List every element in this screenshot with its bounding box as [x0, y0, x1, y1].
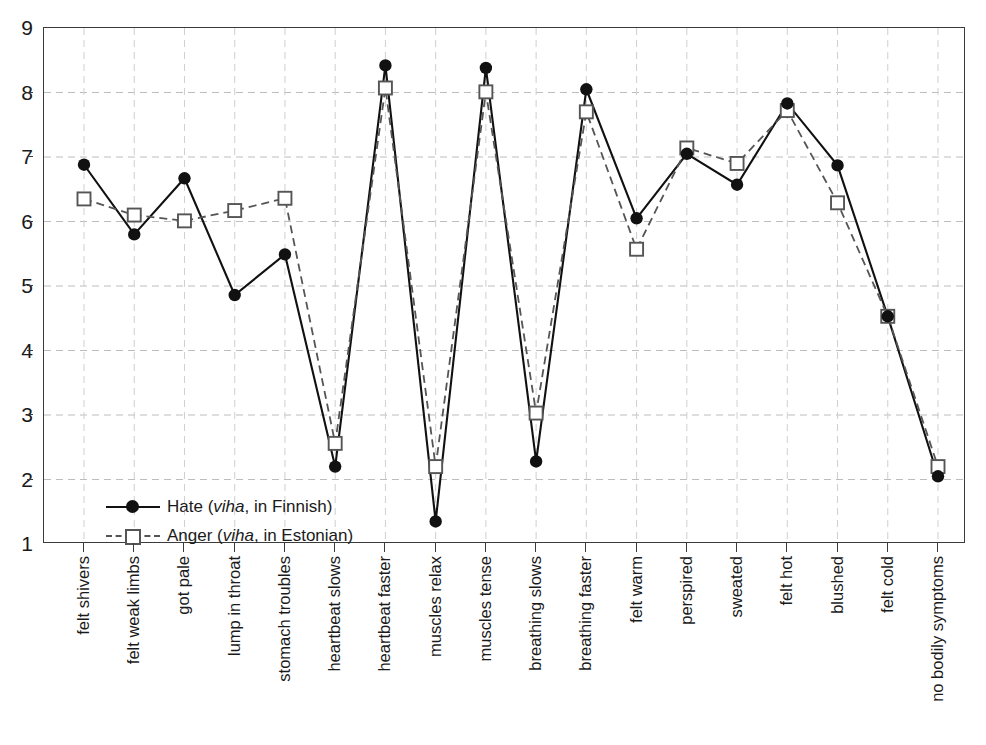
- data-point-hate: [530, 455, 542, 467]
- data-point-anger: [479, 85, 492, 98]
- data-point-anger: [329, 437, 342, 450]
- legend-item-hate: Hate (viha, in Finnish): [106, 492, 406, 521]
- data-point-hate: [379, 59, 391, 71]
- x-axis-tick: [284, 543, 285, 552]
- data-point-hate: [831, 159, 843, 171]
- x-axis-label-text: felt cold: [879, 556, 896, 613]
- x-axis-tick: [887, 543, 888, 552]
- data-point-hate: [78, 159, 90, 171]
- data-point-anger: [228, 204, 241, 217]
- y-axis-tick: [27, 414, 33, 415]
- series-line-anger: [84, 88, 938, 467]
- x-axis-label-text: no bodily symptoms: [929, 556, 946, 702]
- x-axis-tick: [535, 543, 536, 552]
- chart-legend: Hate (viha, in Finnish) Anger (viha, in …: [106, 492, 406, 550]
- data-point-anger: [379, 81, 392, 94]
- legend-marker-filled-circle-icon: [106, 497, 160, 517]
- x-axis-tick: [234, 543, 235, 552]
- x-axis-label-text: muscles tense: [477, 556, 494, 661]
- y-axis-tick: [27, 92, 33, 93]
- x-axis-label-text: felt shivers: [75, 556, 92, 635]
- x-axis-label-text: sweated: [728, 556, 745, 617]
- data-point-anger: [78, 192, 91, 205]
- chart-svg: [44, 28, 966, 544]
- x-axis-label-text: felt warm: [627, 556, 644, 623]
- data-point-anger: [530, 407, 543, 420]
- chart-page: 123456789 Hate (viha, in Finnish) Anger …: [0, 0, 986, 745]
- data-point-hate: [731, 179, 743, 191]
- legend-label-hate: Hate (viha, in Finnish): [167, 497, 332, 517]
- data-point-anger: [831, 196, 844, 209]
- data-point-anger: [278, 192, 291, 205]
- data-point-hate: [580, 83, 592, 95]
- data-point-hate: [229, 289, 241, 301]
- x-axis-tick: [485, 543, 486, 552]
- data-point-hate: [681, 148, 693, 160]
- data-point-hate: [178, 172, 190, 184]
- y-axis-tick: [27, 221, 33, 222]
- x-axis-tick: [334, 543, 335, 552]
- y-axis-tick: [27, 479, 33, 480]
- x-axis-tick: [837, 543, 838, 552]
- data-point-anger: [178, 214, 191, 227]
- x-axis-label-text: got pale: [175, 556, 192, 615]
- x-axis-tick: [736, 543, 737, 552]
- y-axis-tick: [27, 156, 33, 157]
- data-point-hate: [932, 470, 944, 482]
- data-point-anger: [630, 243, 643, 256]
- data-point-hate: [128, 228, 140, 240]
- x-axis-tick: [937, 543, 938, 552]
- data-point-hate: [630, 212, 642, 224]
- x-axis-label-text: muscles relax: [426, 556, 443, 657]
- data-point-hate: [781, 97, 793, 109]
- data-point-hate: [882, 310, 894, 322]
- y-axis-tick-label: 9: [3, 17, 33, 38]
- x-axis-ticks: [43, 543, 965, 553]
- x-axis-label-text: lump in throat: [225, 556, 242, 656]
- data-point-hate: [480, 62, 492, 74]
- x-axis-label-text: stomach troubles: [276, 556, 293, 682]
- data-point-anger: [731, 157, 744, 170]
- x-axis-tick: [435, 543, 436, 552]
- x-axis-label-text: breathing slows: [527, 556, 544, 671]
- x-axis-tick: [133, 543, 134, 552]
- x-axis-tick: [786, 543, 787, 552]
- x-axis-label-text: felt weak limbs: [125, 556, 142, 664]
- x-axis-tick: [585, 543, 586, 552]
- x-axis-label-text: felt hot: [778, 556, 795, 606]
- data-point-hate: [279, 248, 291, 260]
- data-point-hate: [429, 515, 441, 527]
- data-point-hate: [329, 460, 341, 472]
- data-point-anger: [580, 105, 593, 118]
- x-axis-tick: [636, 543, 637, 552]
- x-axis-labels: felt shiversfelt weak limbsgot palelump …: [43, 556, 965, 745]
- y-axis-tick: [27, 285, 33, 286]
- series-line-hate: [84, 65, 938, 521]
- x-axis-tick: [183, 543, 184, 552]
- x-axis-tick: [83, 543, 84, 552]
- y-axis-tick: [27, 350, 33, 351]
- y-axis: 123456789: [0, 27, 33, 543]
- data-point-anger: [128, 209, 141, 222]
- plot-area: Hate (viha, in Finnish) Anger (viha, in …: [43, 27, 965, 543]
- x-axis-tick: [384, 543, 385, 552]
- x-axis-label-text: breathing faster: [577, 556, 594, 671]
- x-axis-label-text: heartbeat faster: [376, 556, 393, 672]
- x-axis-label-text: blushed: [828, 556, 845, 614]
- x-axis-label-text: perspired: [678, 556, 695, 625]
- x-axis-label-text: heartbeat slows: [326, 556, 343, 672]
- y-axis-tick-label: 1: [3, 533, 33, 554]
- data-point-anger: [429, 460, 442, 473]
- x-axis-tick: [686, 543, 687, 552]
